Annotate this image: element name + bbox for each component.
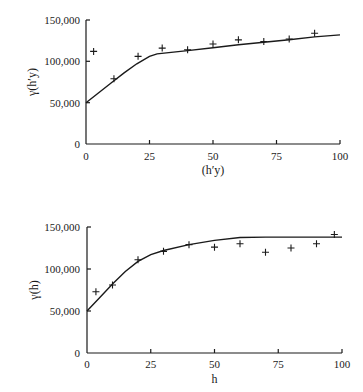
top-y-tick-100000: 100,000 bbox=[44, 55, 80, 67]
data-point-plus-marker bbox=[311, 30, 318, 37]
top-x-tick-100: 100 bbox=[332, 150, 349, 162]
data-point-plus-marker bbox=[186, 241, 193, 248]
bottom-y-axis: 0 50,000 100,000 150,000 γ(h) bbox=[27, 221, 91, 359]
data-point-plus-marker bbox=[92, 288, 99, 295]
bottom-y-tick-100000: 100,000 bbox=[44, 263, 80, 275]
data-point-plus-marker bbox=[262, 249, 269, 256]
data-point-plus-marker bbox=[210, 40, 217, 47]
data-point-plus-marker bbox=[288, 245, 295, 252]
top-y-axis: 0 50,000 100,000 150,000 γ(h′y) bbox=[25, 14, 90, 150]
data-point-plus-marker bbox=[235, 36, 242, 43]
bottom-x-tick-100: 100 bbox=[334, 358, 351, 370]
bottom-x-tick-0: 0 bbox=[84, 358, 90, 370]
bottom-y-axis-title: γ(h) bbox=[27, 280, 41, 300]
data-point-plus-marker bbox=[237, 240, 244, 247]
top-data-markers bbox=[90, 30, 318, 82]
bottom-x-tick-50: 50 bbox=[209, 358, 221, 370]
bottom-y-tick-0: 0 bbox=[75, 347, 81, 359]
data-point-plus-marker bbox=[135, 53, 142, 60]
bottom-y-tick-50000: 50,000 bbox=[50, 305, 81, 317]
top-x-tick-75: 75 bbox=[271, 150, 283, 162]
data-point-plus-marker bbox=[135, 256, 142, 263]
top-y-tick-0: 0 bbox=[75, 138, 81, 150]
bottom-x-axis-title: h bbox=[212, 372, 218, 386]
top-x-tick-25: 25 bbox=[144, 150, 156, 162]
data-point-plus-marker bbox=[286, 36, 293, 43]
top-x-tick-0: 0 bbox=[83, 150, 89, 162]
data-point-plus-marker bbox=[184, 46, 191, 53]
bottom-x-tick-25: 25 bbox=[145, 358, 157, 370]
variogram-figure: 0 50,000 100,000 150,000 γ(h′y) 0 25 50 … bbox=[0, 0, 363, 392]
top-y-axis-title: γ(h′y) bbox=[25, 68, 39, 97]
bottom-y-tick-150000: 150,000 bbox=[44, 221, 80, 233]
top-x-tick-50: 50 bbox=[208, 150, 220, 162]
data-point-plus-marker bbox=[211, 244, 218, 251]
data-point-plus-marker bbox=[160, 248, 167, 255]
data-point-plus-marker bbox=[90, 48, 97, 55]
bottom-chart: 0 50,000 100,000 150,000 γ(h) 0 25 50 75… bbox=[27, 221, 351, 386]
top-y-tick-50000: 50,000 bbox=[50, 97, 81, 109]
data-point-plus-marker bbox=[110, 75, 117, 82]
data-point-plus-marker bbox=[260, 38, 267, 45]
bottom-x-axis: 0 25 50 75 100 h bbox=[84, 349, 351, 386]
data-point-plus-marker bbox=[313, 240, 320, 247]
bottom-x-tick-75: 75 bbox=[273, 358, 285, 370]
top-chart: 0 50,000 100,000 150,000 γ(h′y) 0 25 50 … bbox=[25, 14, 349, 177]
top-x-axis: 0 25 50 75 100 (h′y) bbox=[83, 140, 349, 177]
top-x-axis-title: (h′y) bbox=[202, 163, 225, 177]
data-point-plus-marker bbox=[159, 45, 166, 52]
top-y-tick-150000: 150,000 bbox=[44, 14, 80, 26]
